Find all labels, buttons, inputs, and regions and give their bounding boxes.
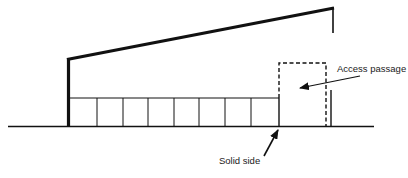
- roof-line: [67, 8, 334, 60]
- solid-side-label: Solid side: [219, 156, 260, 166]
- solid-side-arrow: [264, 130, 278, 156]
- pen-partitions: [97, 98, 251, 126]
- access-passage-label: Access passage: [337, 64, 406, 74]
- access-passage-arrow: [300, 76, 360, 88]
- shelter-diagram: [0, 0, 408, 178]
- access-passage-outline: [279, 63, 326, 127]
